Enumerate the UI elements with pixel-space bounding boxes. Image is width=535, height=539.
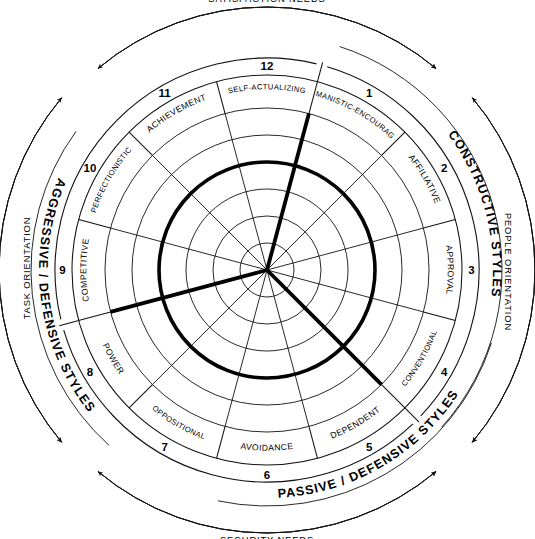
position-number-6: 6 bbox=[264, 469, 270, 481]
position-number-9: 9 bbox=[59, 264, 65, 276]
position-number-5: 5 bbox=[366, 441, 373, 453]
position-number-11: 11 bbox=[159, 87, 172, 99]
security-needs-label: SECURITY NEEDS bbox=[220, 535, 314, 539]
segment-label-5: DEPENDENT bbox=[329, 404, 382, 441]
position-number-2: 2 bbox=[441, 162, 447, 174]
segment-label-3: APPROVAL bbox=[444, 245, 456, 296]
position-number-12: 12 bbox=[261, 60, 274, 72]
circumplex-svg: HUMANISTIC-ENCOURAGINGAFFILIATIVEAPPROVA… bbox=[0, 0, 535, 539]
segment-label-8: POWER bbox=[101, 342, 127, 376]
segment-label-10: PERFECTIONISTIC bbox=[89, 145, 134, 214]
position-number-4: 4 bbox=[441, 366, 448, 378]
segment-label-6: AVOIDANCE bbox=[240, 441, 294, 453]
band-label-layer: CONSTRUCTIVE STYLESPASSIVE / DEFENSIVE S… bbox=[31, 47, 504, 506]
position-number-1: 1 bbox=[366, 87, 373, 99]
circumplex-diagram: HUMANISTIC-ENCOURAGINGAFFILIATIVEAPPROVA… bbox=[0, 0, 535, 539]
segment-label-11: ACHIEVEMENT bbox=[144, 92, 208, 134]
group-arc-0 bbox=[327, 67, 479, 416]
position-number-8: 8 bbox=[87, 366, 94, 378]
people-orientation-label: PEOPLE ORIENTATION bbox=[503, 213, 513, 331]
segment-label-9: COMPETITIVE bbox=[78, 237, 91, 302]
security-arc bbox=[98, 471, 436, 533]
position-number-3: 3 bbox=[468, 264, 474, 276]
segment-label-12: SELF-ACTUALIZING bbox=[227, 82, 307, 95]
security-arc-rev bbox=[98, 471, 436, 533]
segment-label-4: CONVENTIONAL bbox=[400, 329, 439, 388]
profile-boundary-11-10 bbox=[267, 270, 382, 385]
task-orientation-label: TASK ORIENTATION bbox=[22, 217, 32, 320]
position-number-7: 7 bbox=[162, 441, 168, 453]
segment-label-7: OPPOSITIONAL bbox=[150, 404, 206, 442]
position-number-10: 10 bbox=[84, 162, 97, 174]
satisfaction-needs-label: SATISFACTION NEEDS bbox=[208, 0, 325, 4]
group-arc-1 bbox=[64, 330, 413, 482]
security-arc-fwd bbox=[98, 471, 436, 533]
